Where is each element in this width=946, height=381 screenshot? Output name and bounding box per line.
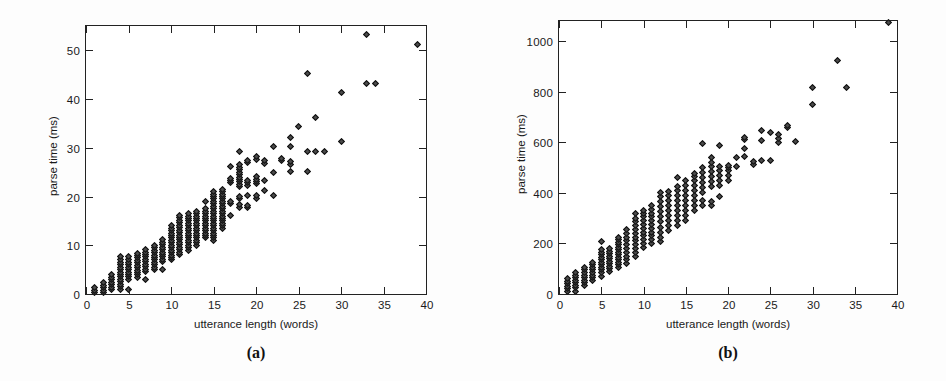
y-tick-label-a-3: 30: [67, 143, 80, 155]
y-tick-a-1: 10: [86, 245, 93, 246]
y-tick-right-b-4: [890, 92, 897, 93]
x-tick-top-a-4: [256, 26, 257, 33]
data-point: [741, 145, 748, 152]
data-point: [235, 148, 242, 155]
y-tick-label-a-4: 40: [67, 94, 80, 106]
figure-container: 010203040500510152025303540 parse time (…: [0, 0, 946, 381]
x-tick-label-b-4: 20: [722, 299, 735, 311]
x-axis-title-a: utterance length (words): [194, 318, 318, 330]
y-tick-b-2: 400: [559, 193, 566, 194]
data-point: [337, 89, 344, 96]
y-tick-a-3: 30: [86, 148, 93, 149]
y-tick-right-b-3: [890, 142, 897, 143]
data-point: [843, 84, 850, 91]
x-tick-top-b-3: [686, 21, 687, 28]
plot-area-b: [559, 21, 897, 294]
data-point: [320, 148, 327, 155]
x-tick-label-a-0: 0: [84, 299, 91, 311]
data-point: [269, 192, 276, 199]
y-tick-right-b-1: [890, 243, 897, 244]
data-point: [363, 31, 370, 38]
x-tick-b-2: 10: [644, 287, 645, 294]
y-tick-label-a-5: 50: [67, 45, 80, 57]
x-tick-a-0: 0: [86, 287, 87, 294]
data-point: [363, 79, 370, 86]
x-tick-b-6: 30: [813, 287, 814, 294]
x-tick-a-1: 5: [129, 287, 130, 294]
x-tick-a-6: 30: [341, 287, 342, 294]
x-tick-top-b-7: [855, 21, 856, 28]
data-point: [758, 137, 765, 144]
x-tick-top-a-3: [214, 26, 215, 33]
data-point: [286, 143, 293, 150]
x-tick-top-a-8: [426, 26, 427, 33]
data-point: [716, 142, 723, 149]
data-point: [286, 168, 293, 175]
y-tick-right-b-0: [890, 294, 897, 295]
x-tick-label-a-3: 15: [208, 299, 221, 311]
x-tick-label-b-8: 40: [891, 299, 904, 311]
y-tick-b-3: 600: [559, 142, 566, 143]
y-axis-title-b: parse time (ms): [515, 94, 527, 214]
y-tick-b-1: 200: [559, 243, 566, 244]
x-tick-top-b-0: [559, 21, 560, 28]
y-tick-right-b-2: [890, 193, 897, 194]
y-tick-a-5: 50: [86, 50, 93, 51]
x-tick-label-a-8: 40: [420, 299, 433, 311]
plot-frame-a: 010203040500510152025303540: [85, 25, 427, 295]
y-tick-b-5: 1000: [559, 41, 566, 42]
y-tick-right-b-5: [890, 41, 897, 42]
x-tick-a-7: 35: [384, 287, 385, 294]
x-tick-top-a-1: [129, 26, 130, 33]
data-point: [337, 138, 344, 145]
x-tick-a-4: 20: [256, 287, 257, 294]
data-point: [261, 177, 268, 184]
y-tick-right-a-3: [419, 148, 426, 149]
data-point: [227, 163, 234, 170]
x-tick-label-b-0: 0: [557, 299, 564, 311]
data-point: [885, 19, 892, 26]
y-tick-label-b-5: 1000: [527, 36, 553, 48]
data-point: [201, 198, 208, 205]
y-tick-label-b-2: 400: [533, 188, 553, 200]
data-point: [733, 154, 740, 161]
data-point: [809, 101, 816, 108]
x-tick-label-b-6: 30: [807, 299, 820, 311]
data-point: [767, 156, 774, 163]
plot-area-a: [86, 26, 426, 294]
plot-frame-b: 020040060080010000510152025303540: [558, 20, 898, 295]
data-point: [674, 174, 681, 181]
y-tick-label-a-1: 10: [67, 240, 80, 252]
data-point: [261, 187, 268, 194]
x-tick-a-5: 25: [299, 287, 300, 294]
x-tick-label-a-7: 35: [378, 299, 391, 311]
x-tick-top-a-7: [384, 26, 385, 33]
data-point: [286, 134, 293, 141]
x-tick-top-a-2: [171, 26, 172, 33]
x-tick-label-a-6: 30: [335, 299, 348, 311]
x-tick-top-b-1: [601, 21, 602, 28]
x-tick-label-b-2: 10: [638, 299, 651, 311]
data-point: [809, 84, 816, 91]
data-point: [792, 138, 799, 145]
y-tick-label-a-0: 0: [73, 289, 80, 301]
data-point: [699, 140, 706, 147]
panel-caption-a: (a): [247, 344, 266, 362]
data-point: [142, 276, 149, 283]
y-tick-label-a-2: 20: [67, 192, 80, 204]
data-point: [303, 168, 310, 175]
y-tick-right-a-0: [419, 294, 426, 295]
x-tick-b-8: 40: [897, 287, 898, 294]
data-point: [303, 70, 310, 77]
data-point: [227, 212, 234, 219]
x-tick-label-a-5: 25: [293, 299, 306, 311]
x-tick-label-b-3: 15: [680, 299, 693, 311]
x-tick-top-b-8: [897, 21, 898, 28]
x-tick-top-b-4: [728, 21, 729, 28]
y-tick-right-a-5: [419, 50, 426, 51]
x-tick-top-b-6: [813, 21, 814, 28]
x-tick-top-a-0: [86, 26, 87, 33]
y-tick-right-a-1: [419, 245, 426, 246]
x-tick-b-5: 25: [770, 287, 771, 294]
y-tick-label-b-4: 800: [533, 87, 553, 99]
